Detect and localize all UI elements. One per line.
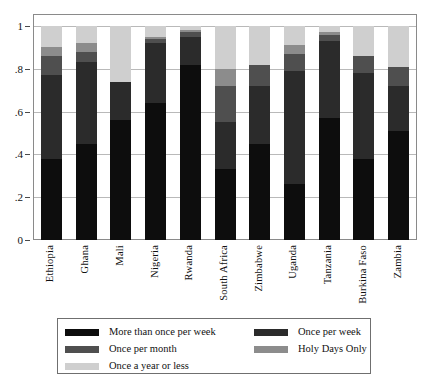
bar-nigeria xyxy=(145,26,166,240)
bar-segment xyxy=(110,120,131,240)
x-axis-label-rwanda: Rwanda xyxy=(184,245,195,281)
bar-zimbabwe xyxy=(249,26,270,240)
bar-segment xyxy=(353,159,374,240)
bar-segment xyxy=(249,144,270,240)
bar-segment xyxy=(180,65,201,240)
bar-ghana xyxy=(76,26,97,240)
legend-column-left: More than once per weekOnce per monthOnc… xyxy=(65,324,216,375)
x-axis-label-south-africa: South Africa xyxy=(219,245,230,301)
x-axis-label-zimbabwe: Zimbabwe xyxy=(254,245,265,292)
chart-legend: More than once per weekOnce per monthOnc… xyxy=(57,318,371,374)
legend-item[interactable]: More than once per week xyxy=(65,324,216,340)
bar-segment xyxy=(110,26,131,82)
y-tick-mark xyxy=(25,154,30,155)
x-axis-label-zambia: Zambia xyxy=(393,245,404,278)
bar-segment xyxy=(215,169,236,240)
x-axis-label-ethiopia: Ethiopia xyxy=(45,245,56,282)
x-axis-label-ghana: Ghana xyxy=(80,245,91,273)
bar-segment xyxy=(284,45,305,54)
bar-segment xyxy=(353,26,374,56)
y-tick-label: .4 xyxy=(15,149,23,160)
legend-item[interactable]: Holy Days Only xyxy=(254,341,367,357)
bar-segment xyxy=(215,69,236,86)
bar-segment xyxy=(110,82,131,121)
bar-segment xyxy=(353,73,374,159)
chart-container: 0.2.4.6.81 More than once per weekOnce p… xyxy=(0,0,428,384)
legend-swatch-icon xyxy=(254,346,288,353)
bar-segment xyxy=(76,43,97,52)
bar-segment xyxy=(249,65,270,86)
bar-segment xyxy=(388,26,409,67)
bar-segment xyxy=(180,30,201,32)
bar-segment xyxy=(41,159,62,240)
y-axis: 0.2.4.6.81 xyxy=(0,0,34,254)
y-tick-mark xyxy=(25,240,30,241)
y-tick-label: 1 xyxy=(18,21,24,32)
bar-burkina-faso xyxy=(353,26,374,240)
bar-segment xyxy=(145,26,166,37)
bar-segment xyxy=(319,35,340,41)
bar-segment xyxy=(319,26,340,32)
bar-segment xyxy=(145,37,166,39)
legend-label: Once a year or less xyxy=(109,361,189,372)
bar-segment xyxy=(145,43,166,103)
bar-segment xyxy=(145,103,166,240)
bar-zambia xyxy=(388,26,409,240)
legend-swatch-icon xyxy=(65,329,99,336)
y-tick-label: .2 xyxy=(15,192,23,203)
bar-segment xyxy=(249,26,270,65)
bar-segment xyxy=(41,75,62,158)
x-axis-label-tanzania: Tanzania xyxy=(323,245,334,284)
bar-segment xyxy=(284,184,305,240)
bar-segment xyxy=(319,41,340,118)
legend-swatch-icon xyxy=(254,329,288,336)
bar-segment xyxy=(319,118,340,240)
bar-segment xyxy=(284,54,305,71)
bar-segment xyxy=(41,26,62,47)
y-tick-label: 0 xyxy=(18,235,24,246)
bar-segment xyxy=(284,71,305,184)
bar-segment xyxy=(353,56,374,73)
legend-label: Once per week xyxy=(298,327,361,338)
plot-area xyxy=(34,26,416,240)
bar-segment xyxy=(41,56,62,75)
legend-label: Holy Days Only xyxy=(298,344,367,355)
bar-segment xyxy=(76,62,97,143)
bar-segment xyxy=(388,86,409,131)
bar-segment xyxy=(180,37,201,65)
bar-segment xyxy=(215,122,236,169)
x-axis-label-uganda: Uganda xyxy=(288,245,299,279)
x-axis-label-nigeria: Nigeria xyxy=(150,245,161,278)
bar-segment xyxy=(76,144,97,240)
legend-item[interactable]: Once a year or less xyxy=(65,358,216,374)
y-tick-mark xyxy=(25,69,30,70)
bar-mali xyxy=(110,26,131,240)
y-tick-label: .8 xyxy=(15,63,23,74)
legend-item[interactable]: Once per week xyxy=(254,324,367,340)
bar-ethiopia xyxy=(41,26,62,240)
bar-segment xyxy=(180,26,201,30)
bar-segment xyxy=(76,26,97,43)
y-tick-mark xyxy=(25,197,30,198)
bar-segment xyxy=(249,86,270,144)
legend-swatch-icon xyxy=(65,346,99,353)
y-tick-mark xyxy=(25,26,30,27)
bar-segment xyxy=(319,32,340,34)
bar-segment xyxy=(215,86,236,122)
bar-segment xyxy=(215,26,236,69)
bar-segment xyxy=(76,52,97,63)
bar-segment xyxy=(388,131,409,240)
bar-uganda xyxy=(284,26,305,240)
legend-label: More than once per week xyxy=(109,327,216,338)
bar-rwanda xyxy=(180,26,201,240)
legend-swatch-icon xyxy=(65,363,99,370)
bar-segment xyxy=(180,32,201,36)
y-tick-mark xyxy=(25,112,30,113)
bar-segment xyxy=(145,39,166,43)
legend-label: Once per month xyxy=(109,344,177,355)
x-axis-label-mali: Mali xyxy=(115,245,126,266)
legend-item[interactable]: Once per month xyxy=(65,341,216,357)
legend-column-right: Once per weekHoly Days Only xyxy=(254,324,367,358)
bar-segment xyxy=(388,67,409,86)
bar-segment xyxy=(284,26,305,45)
